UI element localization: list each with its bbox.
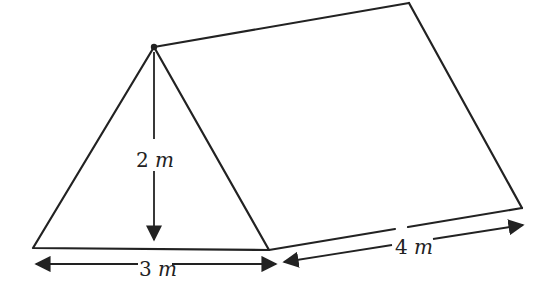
length-label: 4 m [395,235,433,259]
bottom-length-edge-2 [408,208,522,227]
base-label: 3 m [139,257,177,281]
length-arrow-right [433,225,523,239]
ridge-edge [154,3,409,47]
triangular-prism-diagram: 2 m 3 m 4 m [0,0,554,282]
height-label: 2 m [136,148,174,172]
length-arrow-left [284,245,392,262]
back-slant-edge [409,3,522,208]
